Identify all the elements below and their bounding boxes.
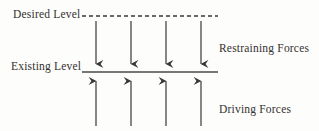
force-field-diagram: Desired Level Existing Level Restraining…	[0, 0, 319, 131]
driving-arrows-group	[96, 81, 201, 126]
restraining-forces-label: Restraining Forces	[219, 42, 309, 54]
existing-level-label: Existing Level	[11, 60, 81, 72]
restraining-arrows-group	[96, 21, 201, 64]
driving-forces-label: Driving Forces	[219, 103, 291, 115]
desired-level-label: Desired Level	[13, 8, 80, 20]
